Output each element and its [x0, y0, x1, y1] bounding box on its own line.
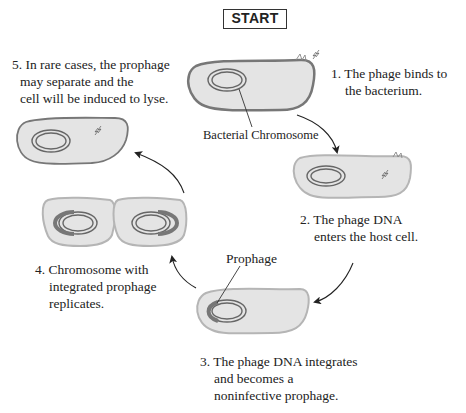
arrow-2-to-3	[315, 263, 353, 302]
step-3-line-3: noninfective prophage.	[214, 388, 338, 404]
step-3-line-1: 3. The phage DNA integrates	[200, 354, 358, 370]
step-5-line-3: cell will be induced to lyse.	[20, 91, 168, 107]
prophage-label: Prophage	[226, 251, 277, 267]
phage-dna-icon	[313, 50, 319, 59]
step-3-line-2: and becomes a	[214, 371, 293, 387]
step-4-line-1: 4. Chromosome with	[35, 262, 149, 278]
step-5-line-2: may separate and the	[20, 74, 134, 90]
step-1-line-2: the bacterium.	[345, 83, 422, 99]
step-2-line-1: 2. The phage DNA	[300, 212, 402, 228]
cell-step-5	[17, 118, 128, 164]
cell-step-4	[43, 198, 187, 246]
step-4-line-3: replicates.	[49, 296, 104, 312]
cell-step-2	[294, 152, 411, 198]
step-4-line-2: integrated prophage	[49, 279, 157, 295]
step-2-line-2: enters the host cell.	[314, 229, 418, 245]
step-1-line-1: 1. The phage binds to	[331, 66, 447, 82]
arrow-4-to-5	[136, 153, 184, 193]
step-5-line-1: 5. In rare cases, the prophage	[12, 57, 170, 73]
cell-step-3	[197, 266, 309, 333]
arrow-3-to-4	[172, 257, 196, 288]
bacterial-chromosome-label: Bacterial Chromosome	[203, 127, 319, 143]
